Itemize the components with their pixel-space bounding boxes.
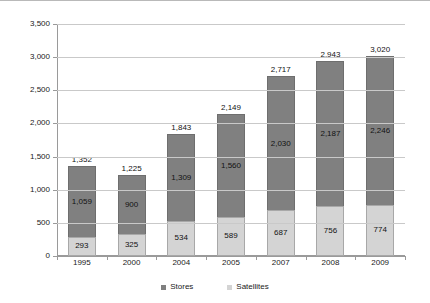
x-tick-label-2008: 2008	[306, 259, 356, 267]
bar-segment-satellites[interactable]: 756	[316, 206, 344, 256]
gridline-1000	[57, 190, 405, 191]
y-tick-label-3500: 3,500	[30, 20, 50, 28]
bar-value-satellites: 293	[75, 242, 88, 250]
bar-group-2005[interactable]: 1,5605892,149	[206, 24, 256, 256]
chart-legend: StoresSatellites	[0, 283, 430, 291]
bar-value-stores: 2,030	[271, 140, 291, 148]
bar-stack[interactable]: 900325	[118, 175, 146, 256]
bar-group-2009[interactable]: 2,2467743,020	[355, 24, 405, 256]
legend-swatch-satellites-icon	[227, 285, 232, 290]
gridline-2500	[57, 90, 405, 91]
plot-area: 1,0592931,3529003251,2251,3095341,8431,5…	[57, 24, 405, 256]
x-tick-label-2009: 2009	[355, 259, 405, 267]
y-tick-mark-2000	[53, 123, 57, 124]
legend-item-stores[interactable]: Stores	[161, 283, 193, 291]
bar-total-label: 1,352	[72, 156, 92, 164]
y-tick-label-2500: 2,500	[30, 86, 50, 94]
bar-value-stores: 2,187	[320, 130, 340, 138]
x-tick-mark-1	[107, 256, 108, 260]
y-tick-label-3000: 3,000	[30, 53, 50, 61]
bar-value-stores: 1,309	[171, 174, 191, 182]
bar-segment-satellites[interactable]: 687	[267, 210, 295, 256]
x-tick-mark-7	[405, 256, 406, 260]
y-tick-label-1000: 1,000	[30, 186, 50, 194]
y-tick-label-500: 500	[37, 219, 50, 227]
bars-layer: 1,0592931,3529003251,2251,3095341,8431,5…	[57, 24, 405, 256]
gridline-1500	[57, 157, 405, 158]
bar-total-label: 1,225	[122, 165, 142, 173]
bar-value-satellites: 687	[274, 229, 287, 237]
y-tick-mark-1000	[53, 190, 57, 191]
x-tick-mark-3	[206, 256, 207, 260]
x-tick-label-2007: 2007	[256, 259, 306, 267]
bar-segment-stores[interactable]: 900	[118, 175, 146, 235]
x-tick-label-2005: 2005	[206, 259, 256, 267]
bar-total-label: 2,149	[221, 104, 241, 112]
gridline-2000	[57, 123, 405, 124]
bar-stack[interactable]: 1,309534	[167, 134, 195, 256]
bar-value-stores: 900	[125, 201, 138, 209]
x-tick-mark-5	[306, 256, 307, 260]
x-axis: 1995200020042005200720082009	[57, 259, 405, 267]
x-tick-label-1995: 1995	[57, 259, 107, 267]
legend-label: Satellites	[236, 283, 268, 291]
bar-value-stores: 2,246	[370, 127, 390, 135]
legend-swatch-stores-icon	[161, 285, 166, 290]
gridline-3000	[57, 57, 405, 58]
gridline-500	[57, 223, 405, 224]
x-tick-label-2000: 2000	[107, 259, 157, 267]
bar-segment-stores[interactable]: 1,059	[68, 166, 96, 236]
bar-total-label: 3,020	[370, 46, 390, 54]
bar-value-satellites: 774	[373, 226, 386, 234]
legend-label: Stores	[170, 283, 193, 291]
legend-item-satellites[interactable]: Satellites	[227, 283, 268, 291]
y-axis: 05001,0001,5002,0002,5003,0003,500	[0, 24, 50, 256]
bar-segment-stores[interactable]: 2,246	[366, 56, 394, 205]
y-tick-mark-1500	[53, 157, 57, 158]
y-tick-mark-500	[53, 223, 57, 224]
x-tick-mark-2	[156, 256, 157, 260]
bar-group-2004[interactable]: 1,3095341,843	[156, 24, 206, 256]
y-tick-label-1500: 1,500	[30, 153, 50, 161]
bar-stack[interactable]: 2,030687	[267, 76, 295, 256]
bar-value-stores: 1,560	[221, 162, 241, 170]
bar-segment-stores[interactable]: 1,309	[167, 134, 195, 221]
bar-segment-satellites[interactable]: 293	[68, 237, 96, 256]
x-tick-mark-6	[355, 256, 356, 260]
bar-segment-stores[interactable]: 2,187	[316, 61, 344, 206]
bar-total-label: 2,717	[271, 66, 291, 74]
bar-group-2007[interactable]: 2,0306872,717	[256, 24, 306, 256]
x-tick-mark-4	[256, 256, 257, 260]
bar-group-2008[interactable]: 2,1877562,943	[306, 24, 356, 256]
bar-segment-stores[interactable]: 1,560	[217, 114, 245, 217]
bar-value-stores: 1,059	[72, 198, 92, 206]
bar-value-satellites: 756	[324, 227, 337, 235]
bar-segment-satellites[interactable]: 774	[366, 205, 394, 256]
bar-value-satellites: 325	[125, 241, 138, 249]
y-tick-label-2000: 2,000	[30, 119, 50, 127]
y-tick-mark-3000	[53, 57, 57, 58]
stacked-bar-chart: 05001,0001,5002,0002,5003,0003,500 1,059…	[0, 0, 430, 303]
bar-segment-satellites[interactable]: 534	[167, 221, 195, 256]
x-tick-mark-0	[57, 256, 58, 260]
y-tick-label-0: 0	[46, 252, 50, 260]
bar-value-satellites: 534	[175, 234, 188, 242]
bar-segment-satellites[interactable]: 325	[118, 234, 146, 256]
bar-value-satellites: 589	[224, 232, 237, 240]
bar-group-1995[interactable]: 1,0592931,352	[57, 24, 107, 256]
bar-stack[interactable]: 1,059293	[68, 166, 96, 256]
y-tick-mark-3500	[53, 24, 57, 25]
bar-group-2000[interactable]: 9003251,225	[107, 24, 157, 256]
y-tick-mark-2500	[53, 90, 57, 91]
gridline-0	[57, 256, 405, 257]
bar-total-label: 1,843	[171, 124, 191, 132]
gridline-3500	[57, 24, 405, 25]
x-tick-label-2004: 2004	[156, 259, 206, 267]
bar-stack[interactable]: 1,560589	[217, 114, 245, 256]
